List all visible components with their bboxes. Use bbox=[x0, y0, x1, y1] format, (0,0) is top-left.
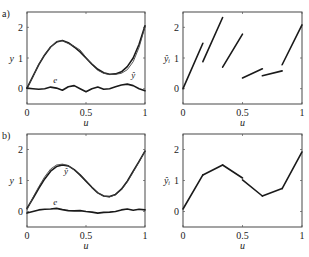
series-y bbox=[27, 151, 145, 208]
y-tick-label: 1 bbox=[174, 175, 179, 186]
local-model-segment bbox=[243, 69, 263, 78]
series-y-hat bbox=[27, 27, 145, 89]
y-axis-label: y bbox=[9, 53, 15, 64]
x-tick-label: 1 bbox=[143, 230, 148, 241]
x-axis-label: u bbox=[84, 117, 89, 128]
y-tick-label: 2 bbox=[174, 22, 179, 33]
y-axis-label: ŷᵢ bbox=[163, 175, 170, 186]
y-tick-label: 1 bbox=[174, 53, 179, 64]
x-tick-label: 0 bbox=[25, 107, 30, 118]
panel-label-b: b) bbox=[2, 130, 10, 142]
x-tick-label: 1 bbox=[300, 230, 305, 241]
x-axis-label: u bbox=[240, 240, 245, 251]
x-tick-label: 1 bbox=[300, 107, 305, 118]
panel-label-a: a) bbox=[2, 8, 10, 20]
x-tick-label: 0 bbox=[181, 107, 186, 118]
local-model-segment bbox=[203, 165, 223, 175]
x-axis-label: u bbox=[84, 240, 89, 251]
x-tick-label: 0 bbox=[25, 230, 30, 241]
local-model-segment bbox=[282, 25, 302, 65]
plot-a-left: 00.51012uyŷe bbox=[9, 12, 148, 128]
local-model-segment bbox=[262, 189, 282, 196]
series-e bbox=[27, 84, 145, 92]
y-tick-label: 0 bbox=[18, 83, 23, 94]
plot-b-right: 00.51012uŷᵢ bbox=[163, 134, 305, 251]
local-model-segment bbox=[203, 18, 223, 62]
y-tick-label: 0 bbox=[18, 206, 23, 217]
series-e bbox=[27, 208, 145, 213]
annotation-y-hat: ŷ bbox=[130, 70, 135, 80]
y-tick-label: 0 bbox=[174, 206, 179, 217]
figure: a) b) 00.51012uyŷe 00.51012uŷᵢ 00.51012u… bbox=[0, 0, 309, 257]
y-tick-label: 2 bbox=[18, 22, 23, 33]
x-tick-label: 0 bbox=[181, 230, 186, 241]
x-tick-label: 1 bbox=[143, 107, 148, 118]
local-model-segment bbox=[243, 180, 263, 196]
x-axis-label: u bbox=[240, 117, 245, 128]
y-tick-label: 1 bbox=[18, 175, 23, 186]
annotation-e: e bbox=[53, 197, 57, 207]
y-tick-label: 1 bbox=[18, 53, 23, 64]
y-axis-label: ŷᵢ bbox=[163, 53, 170, 64]
y-axis-label: y bbox=[9, 175, 15, 186]
local-model-segment bbox=[223, 34, 243, 67]
axes-frame bbox=[183, 12, 302, 104]
plot-a-right: 00.51012uŷᵢ bbox=[163, 12, 305, 128]
local-model-segment bbox=[183, 43, 203, 88]
local-model-segment bbox=[183, 175, 203, 209]
y-tick-label: 0 bbox=[174, 83, 179, 94]
annotation-e: e bbox=[53, 75, 57, 85]
y-tick-label: 2 bbox=[18, 144, 23, 155]
plot-b-left: 00.51012uyŷe bbox=[9, 134, 148, 251]
annotation-y-hat: ŷ bbox=[63, 166, 68, 176]
y-tick-label: 2 bbox=[174, 144, 179, 155]
local-model-segment bbox=[262, 71, 282, 76]
local-model-segment bbox=[282, 152, 302, 189]
local-model-segment bbox=[223, 165, 243, 178]
